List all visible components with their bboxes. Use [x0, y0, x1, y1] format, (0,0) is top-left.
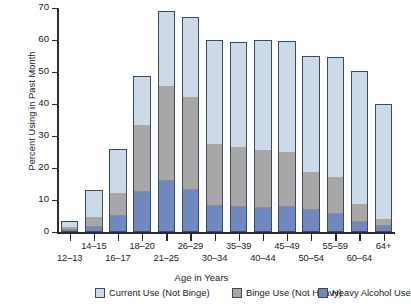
- x-tick: [118, 232, 119, 241]
- bar-segment-binge-use: [134, 125, 149, 192]
- x-tick-label: 18–20: [122, 241, 162, 251]
- x-tick: [359, 232, 360, 241]
- bar-segment-heavy-alcohol-use: [207, 206, 222, 231]
- bar-segment-heavy-alcohol-use: [376, 226, 391, 231]
- y-tick-label: 70: [38, 1, 49, 12]
- bar-45–49: [278, 41, 295, 232]
- bar-segment-heavy-alcohol-use: [352, 222, 367, 231]
- bar-segment-current-use: [231, 43, 246, 147]
- y-tick-label: 10: [38, 193, 49, 204]
- legend-swatch-icon: [318, 288, 328, 298]
- bar-segment-current-use: [376, 105, 391, 219]
- bar-segment-heavy-alcohol-use: [231, 207, 246, 231]
- chart-legend: Current Use (Not Binge)Binge Use (Not He…: [0, 287, 403, 303]
- y-tick-label: 60: [38, 33, 49, 44]
- bar-segment-binge-use: [376, 219, 391, 227]
- y-tick-label: 20: [38, 161, 49, 172]
- bar-18–20: [133, 76, 150, 232]
- bar-segment-binge-use: [279, 152, 294, 207]
- bar-segment-binge-use: [183, 97, 198, 190]
- x-tick-label: 12–13: [50, 253, 90, 263]
- x-tick-label: 14–15: [74, 241, 114, 251]
- x-tick-label: 16–17: [98, 253, 138, 263]
- x-tick-label: 35–39: [219, 241, 259, 251]
- x-tick: [263, 232, 264, 241]
- x-tick-label: 21–25: [146, 253, 186, 263]
- bar-segment-current-use: [183, 18, 198, 97]
- x-tick-label: 26–29: [170, 241, 210, 251]
- y-axis-title: Percent Using in Past Month: [27, 16, 37, 206]
- bar-segment-heavy-alcohol-use: [159, 181, 174, 231]
- x-tick-label: 40–44: [243, 253, 283, 263]
- y-tick-label: 50: [38, 65, 49, 76]
- bar-14–15: [85, 190, 102, 232]
- bar-35–39: [230, 42, 247, 232]
- bar-segment-binge-use: [110, 193, 125, 217]
- bar-segment-binge-use: [303, 172, 318, 210]
- legend-label: Current Use (Not Binge): [109, 287, 210, 298]
- legend-item: Heavy Alcohol Use: [318, 287, 411, 298]
- x-tick: [335, 232, 336, 241]
- bar-segment-current-use: [207, 41, 222, 144]
- bar-55–59: [327, 57, 344, 232]
- bar-21–25: [158, 11, 175, 232]
- x-axis-title: Age in Years: [0, 272, 403, 283]
- bar-30–34: [206, 40, 223, 232]
- x-tick-label: 60–64: [339, 253, 379, 263]
- bar-segment-current-use: [352, 72, 367, 204]
- x-tick-label: 30–34: [195, 253, 235, 263]
- bar-segment-binge-use: [328, 177, 343, 214]
- x-tick: [142, 232, 143, 241]
- bar-segment-heavy-alcohol-use: [62, 230, 77, 231]
- x-tick: [70, 232, 71, 241]
- legend-item: Current Use (Not Binge): [95, 287, 210, 298]
- bar-segment-binge-use: [255, 150, 270, 207]
- bar-group: [57, 8, 395, 232]
- x-tick-label: 45–49: [267, 241, 307, 251]
- x-tick: [94, 232, 95, 241]
- bar-segment-current-use: [303, 57, 318, 172]
- bar-segment-current-use: [255, 41, 270, 151]
- x-tick: [190, 232, 191, 241]
- x-tick: [287, 232, 288, 241]
- x-tick: [311, 232, 312, 241]
- bar-segment-current-use: [86, 191, 101, 217]
- bar-12–13: [61, 221, 78, 232]
- legend-label: Heavy Alcohol Use: [332, 287, 411, 298]
- bar-segment-heavy-alcohol-use: [134, 192, 149, 231]
- y-tick-label: 0: [44, 225, 49, 236]
- plot-area: 010203040506070: [57, 8, 395, 232]
- bar-segment-heavy-alcohol-use: [255, 208, 270, 231]
- bar-60–64: [351, 71, 368, 232]
- bar-segment-current-use: [159, 12, 174, 86]
- bar-segment-current-use: [134, 77, 149, 126]
- x-tick: [384, 232, 385, 241]
- bar-segment-binge-use: [86, 217, 101, 227]
- x-tick-label: 64+: [364, 241, 404, 251]
- bar-segment-current-use: [110, 150, 125, 193]
- x-axis-ticks: 12–1314–1516–1718–2021–2526–2930–3435–39…: [57, 232, 395, 272]
- x-tick-label: 50–54: [291, 253, 331, 263]
- bar-segment-current-use: [279, 42, 294, 153]
- bar-50–54: [302, 56, 319, 232]
- x-tick: [166, 232, 167, 241]
- bar-64+: [375, 104, 392, 232]
- legend-swatch-icon: [232, 288, 242, 298]
- y-tick-label: 40: [38, 97, 49, 108]
- bar-segment-current-use: [328, 58, 343, 178]
- x-tick: [239, 232, 240, 241]
- bar-segment-binge-use: [231, 147, 246, 207]
- bar-16–17: [109, 149, 126, 232]
- bar-segment-heavy-alcohol-use: [303, 210, 318, 231]
- bar-26–29: [182, 17, 199, 232]
- bar-segment-heavy-alcohol-use: [183, 190, 198, 231]
- bar-segment-heavy-alcohol-use: [279, 207, 294, 231]
- bar-segment-heavy-alcohol-use: [110, 216, 125, 231]
- x-tick-label: 55–59: [315, 241, 355, 251]
- y-tick-label: 30: [38, 129, 49, 140]
- bar-segment-heavy-alcohol-use: [86, 227, 101, 231]
- legend-swatch-icon: [95, 288, 105, 298]
- bar-segment-heavy-alcohol-use: [328, 214, 343, 231]
- bar-segment-binge-use: [352, 204, 367, 222]
